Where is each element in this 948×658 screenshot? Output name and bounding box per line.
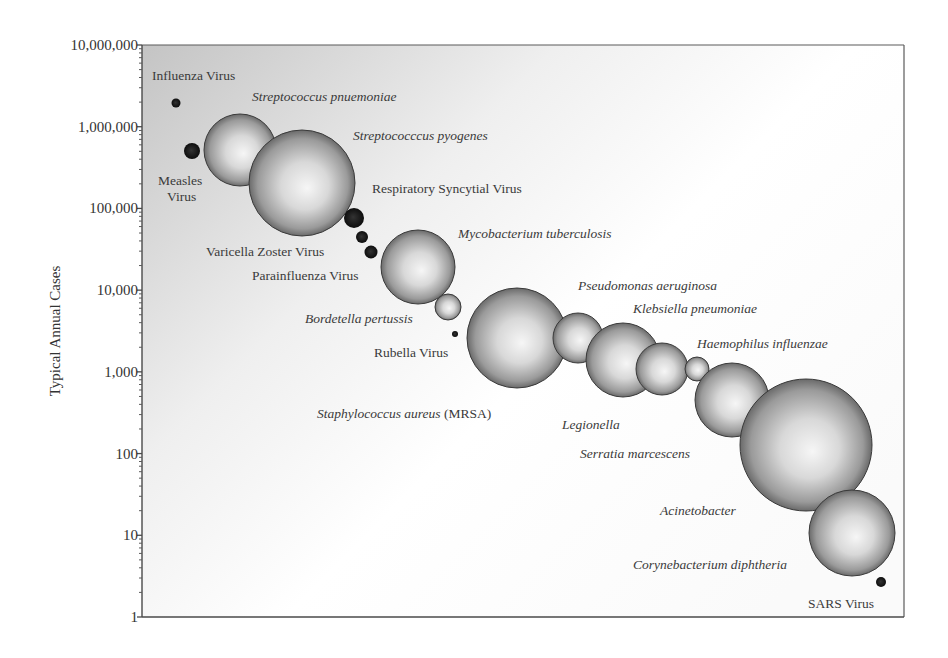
point-label: Parainfluenza Virus xyxy=(252,268,359,283)
y-tick-label: 100 xyxy=(116,446,139,462)
point-label: Influenza Virus xyxy=(152,68,235,83)
virus-dot xyxy=(344,208,364,228)
point-label-suffix: (MRSA) xyxy=(441,406,492,421)
point-label: Rubella Virus xyxy=(374,345,448,360)
y-tick-label: 1,000,000 xyxy=(78,119,138,135)
point-label: Acinetobacter xyxy=(659,503,736,518)
bubble-chart: Influenza VirusMeaslesVirusStreptococcus… xyxy=(0,0,948,658)
point-label: Legionella xyxy=(561,417,620,432)
point-label: Respiratory Syncytial Virus xyxy=(372,181,522,196)
point-label: Pseudomonas aeruginosa xyxy=(577,278,717,293)
point-label: Streptococccus pyogenes xyxy=(353,128,488,143)
bacteria-bubble xyxy=(381,230,455,304)
y-tick-label: 10,000 xyxy=(97,282,138,298)
y-tick-label: 1,000 xyxy=(104,364,138,380)
virus-dot xyxy=(876,577,886,587)
chart-canvas: Influenza VirusMeaslesVirusStreptococcus… xyxy=(0,0,948,658)
point-label-line2: Virus xyxy=(167,189,196,204)
point-label: Measles xyxy=(158,173,202,188)
point-label: Klebsiella pneumoniae xyxy=(632,301,757,316)
y-tick-label: 1 xyxy=(131,609,139,625)
y-tick-label: 100,000 xyxy=(89,200,138,216)
point-label: Staphylococcus aureus (MRSA) xyxy=(317,406,491,421)
y-tick-label: 10,000,000 xyxy=(71,37,139,53)
bacteria-bubble xyxy=(435,294,461,320)
point-label: SARS Virus xyxy=(808,596,874,611)
bacteria-bubble xyxy=(467,288,567,388)
virus-dot xyxy=(365,246,378,259)
virus-dot xyxy=(356,231,368,243)
point-label: Bordetella pertussis xyxy=(305,311,413,326)
y-axis-title: Typical Annual Cases xyxy=(47,266,63,397)
point-label: Mycobacterium tuberculosis xyxy=(457,226,612,241)
bacteria-bubble xyxy=(249,130,355,236)
bacteria-bubble xyxy=(636,343,688,395)
point-label: Serratia marcescens xyxy=(580,446,690,461)
point-label: Streptococcus pnuemoniae xyxy=(252,89,397,104)
virus-dot xyxy=(184,143,200,159)
y-axis-ticks: 10,000,0001,000,000100,00010,0001,000100… xyxy=(71,37,143,625)
virus-dot xyxy=(172,99,181,108)
point-label: Corynebacterium diphtheria xyxy=(633,557,787,572)
y-tick-label: 10 xyxy=(123,527,138,543)
point-label: Varicella Zoster Virus xyxy=(206,244,324,259)
point-label: Haemophilus influenzae xyxy=(696,336,828,351)
bacteria-bubble xyxy=(809,490,895,576)
virus-dot xyxy=(452,331,458,337)
